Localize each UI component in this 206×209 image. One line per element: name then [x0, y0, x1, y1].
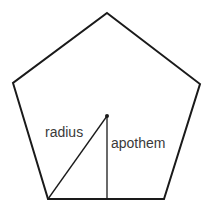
radius-label: radius — [45, 124, 83, 140]
center-point — [105, 114, 109, 118]
pentagon-diagram: radius apothem — [0, 0, 206, 209]
apothem-label: apothem — [111, 135, 165, 151]
